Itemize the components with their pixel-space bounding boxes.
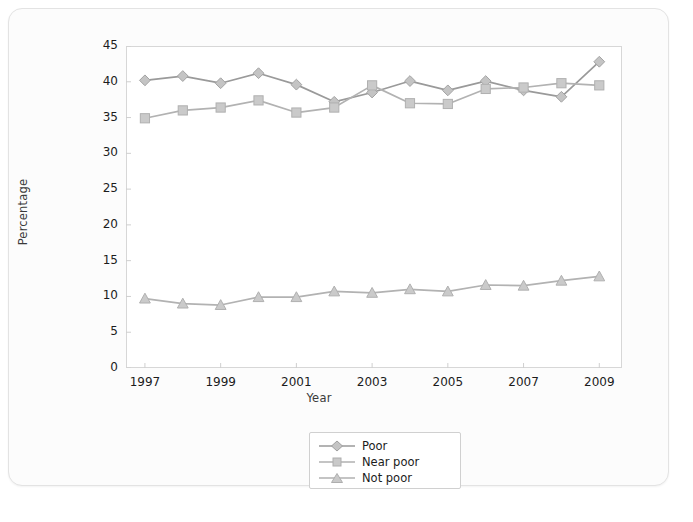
data-point-square bbox=[443, 99, 452, 108]
series-not-poor bbox=[140, 271, 605, 309]
data-point-square bbox=[481, 84, 490, 93]
data-point-square bbox=[216, 103, 225, 112]
y-tick-30: 30 bbox=[88, 145, 118, 159]
y-tick-0: 0 bbox=[88, 360, 118, 374]
data-point-diamond bbox=[215, 78, 226, 89]
y-axis-title: Percentage bbox=[16, 167, 30, 257]
x-tick-2005: 2005 bbox=[423, 375, 473, 389]
data-point-square bbox=[368, 81, 377, 90]
legend-label-not-poor: Not poor bbox=[362, 471, 412, 485]
legend-item-near-poor: Near poor bbox=[310, 454, 460, 470]
x-tick-1997: 1997 bbox=[120, 375, 170, 389]
x-axis-title: Year bbox=[239, 391, 399, 405]
chart-legend: Poor Near poor Not poor bbox=[309, 432, 461, 489]
y-tick-10: 10 bbox=[88, 288, 118, 302]
y-tick-35: 35 bbox=[88, 110, 118, 124]
data-point-diamond bbox=[140, 75, 151, 86]
series-near-poor bbox=[140, 79, 604, 123]
y-tick-45: 45 bbox=[88, 38, 118, 52]
chart-plot-svg bbox=[126, 46, 622, 368]
y-tick-40: 40 bbox=[88, 74, 118, 88]
data-point-square bbox=[405, 99, 414, 108]
chart-figure: Percentage Year 051015202530354045 19971… bbox=[9, 9, 670, 487]
x-tick-1999: 1999 bbox=[196, 375, 246, 389]
y-tick-20: 20 bbox=[88, 217, 118, 231]
x-tick-2009: 2009 bbox=[574, 375, 624, 389]
data-point-diamond bbox=[177, 71, 188, 82]
data-point-square bbox=[178, 106, 187, 115]
y-tick-15: 15 bbox=[88, 253, 118, 267]
legend-item-not-poor: Not poor bbox=[310, 470, 460, 486]
legend-symbol-square bbox=[317, 455, 357, 469]
bottom-strip bbox=[0, 494, 693, 522]
legend-symbol-triangle bbox=[317, 471, 357, 485]
x-tick-2003: 2003 bbox=[347, 375, 397, 389]
legend-symbol-diamond bbox=[317, 439, 357, 453]
data-point-square bbox=[292, 108, 301, 117]
data-point-diamond bbox=[253, 68, 264, 79]
data-point-diamond bbox=[442, 85, 453, 96]
data-point-triangle bbox=[594, 271, 605, 281]
legend-label-poor: Poor bbox=[362, 439, 387, 453]
figure-card: Percentage Year 051015202530354045 19971… bbox=[8, 8, 669, 486]
x-tick-2001: 2001 bbox=[271, 375, 321, 389]
x-tick-2007: 2007 bbox=[499, 375, 549, 389]
y-tick-25: 25 bbox=[88, 181, 118, 195]
data-point-square bbox=[330, 103, 339, 112]
data-point-square bbox=[140, 114, 149, 123]
legend-label-near-poor: Near poor bbox=[362, 455, 419, 469]
data-point-square bbox=[595, 81, 604, 90]
data-point-square bbox=[557, 79, 566, 88]
data-point-square bbox=[519, 83, 528, 92]
data-point-diamond bbox=[291, 79, 302, 90]
data-point-square bbox=[254, 96, 263, 105]
data-point-triangle bbox=[140, 293, 151, 303]
y-tick-5: 5 bbox=[88, 324, 118, 338]
data-point-diamond bbox=[405, 76, 416, 87]
legend-item-poor: Poor bbox=[310, 438, 460, 454]
